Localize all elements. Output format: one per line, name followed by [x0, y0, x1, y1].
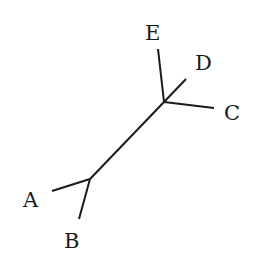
- edge-B: [79, 179, 90, 219]
- edge-D: [164, 79, 186, 102]
- tree-edges: [52, 49, 214, 219]
- edge-E: [158, 49, 164, 102]
- leaf-label-D: D: [195, 51, 212, 75]
- leaf-label-B: B: [64, 229, 79, 253]
- leaf-label-C: C: [224, 101, 240, 125]
- phylogenetic-tree: E D C A B: [0, 0, 253, 264]
- edge-A: [52, 179, 90, 191]
- edge-C: [164, 102, 214, 108]
- leaf-label-E: E: [145, 21, 160, 45]
- edge-internal: [90, 102, 164, 179]
- leaf-label-A: A: [22, 188, 39, 212]
